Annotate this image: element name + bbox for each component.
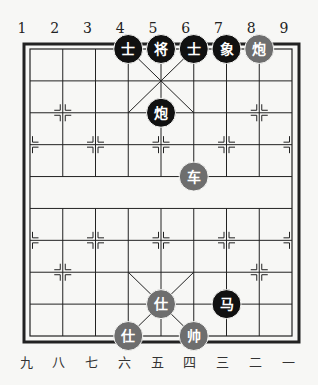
file-number-label: 7 — [214, 20, 223, 36]
position-marker — [164, 136, 170, 142]
position-marker — [218, 136, 224, 142]
red-advisor-label: 仕 — [153, 296, 168, 312]
position-marker — [164, 147, 170, 153]
position-marker — [164, 232, 170, 238]
file-chinese-label: 六 — [118, 355, 131, 370]
position-marker — [87, 243, 93, 249]
position-marker — [251, 275, 257, 281]
position-marker — [54, 115, 60, 121]
position-marker — [153, 136, 159, 142]
position-marker — [262, 104, 268, 110]
black-cannon-label: 炮 — [154, 105, 168, 121]
file-chinese-label: 四 — [183, 355, 196, 370]
position-marker — [218, 243, 224, 249]
position-marker — [153, 232, 159, 238]
position-marker — [98, 232, 104, 238]
position-marker — [87, 147, 93, 153]
position-marker — [284, 147, 290, 153]
position-marker — [284, 243, 290, 249]
black-advisor-label: 士 — [187, 41, 201, 57]
file-chinese-label: 三 — [216, 355, 229, 370]
red-cannon-label: 炮 — [252, 41, 266, 57]
position-marker — [65, 104, 71, 110]
black-elephant-label: 象 — [220, 41, 234, 57]
file-chinese-label: 九 — [20, 355, 33, 370]
black-horse-label: 马 — [220, 296, 234, 312]
red-advisor-label: 仕 — [120, 328, 135, 344]
file-chinese-label: 一 — [282, 355, 295, 370]
black-advisor-label: 士 — [121, 41, 135, 57]
position-marker — [229, 232, 235, 238]
position-marker — [98, 136, 104, 142]
position-marker — [229, 136, 235, 142]
file-number-label: 1 — [18, 20, 27, 36]
position-marker — [65, 115, 71, 121]
board-canvas[interactable]: 123456789九八七六五四三二一士将士象炮炮车仕马仕帅 — [0, 0, 318, 385]
file-number-label: 9 — [280, 20, 289, 36]
position-marker — [153, 243, 159, 249]
file-chinese-label: 五 — [151, 355, 164, 370]
file-chinese-label: 八 — [52, 355, 65, 370]
xiangqi-board[interactable]: 123456789九八七六五四三二一士将士象炮炮车仕马仕帅 — [0, 0, 318, 385]
position-marker — [262, 264, 268, 270]
file-number-label: 6 — [181, 20, 190, 36]
position-marker — [87, 136, 93, 142]
position-marker — [229, 243, 235, 249]
position-marker — [54, 264, 60, 270]
black-general-label: 将 — [154, 41, 168, 57]
position-marker — [33, 147, 39, 153]
position-marker — [262, 115, 268, 121]
position-marker — [284, 232, 290, 238]
file-number-label: 8 — [247, 20, 256, 36]
position-marker — [164, 243, 170, 249]
position-marker — [65, 264, 71, 270]
position-marker — [87, 232, 93, 238]
position-marker — [54, 104, 60, 110]
position-marker — [153, 147, 159, 153]
position-marker — [262, 275, 268, 281]
position-marker — [33, 243, 39, 249]
file-chinese-label: 二 — [249, 355, 262, 370]
red-general-label: 帅 — [187, 328, 201, 344]
position-marker — [98, 243, 104, 249]
position-marker — [33, 232, 39, 238]
position-marker — [218, 147, 224, 153]
position-marker — [33, 136, 39, 142]
position-marker — [284, 136, 290, 142]
position-marker — [65, 275, 71, 281]
file-number-label: 3 — [83, 20, 92, 36]
position-marker — [251, 104, 257, 110]
file-number-label: 2 — [50, 20, 59, 36]
position-marker — [98, 147, 104, 153]
file-chinese-label: 七 — [85, 355, 98, 370]
position-marker — [251, 264, 257, 270]
position-marker — [218, 232, 224, 238]
position-marker — [54, 275, 60, 281]
position-marker — [251, 115, 257, 121]
position-marker — [229, 147, 235, 153]
file-number-label: 5 — [149, 20, 158, 36]
file-number-label: 4 — [116, 20, 125, 36]
red-chariot-label: 车 — [187, 169, 201, 185]
